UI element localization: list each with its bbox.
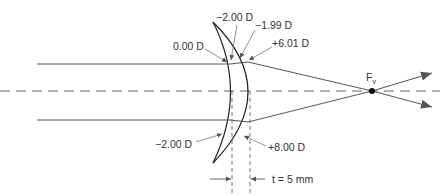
lens-front-surface — [213, 22, 231, 163]
label-front-surface-top: −2.00 D — [216, 11, 253, 23]
lens-diagram: −2.00 D −1.99 D 0.00 D +6.01 D −2.00 D +… — [0, 0, 440, 196]
label-back-ray-power: +6.01 D — [272, 37, 309, 49]
leader-back-bottom — [244, 136, 266, 146]
label-thickness: t = 5 mm — [272, 173, 313, 185]
upper-ray — [37, 62, 432, 91]
focal-point-dot — [369, 88, 375, 94]
label-front-ray-power: 0.00 D — [173, 40, 204, 52]
label-back-surface-top: −1.99 D — [255, 19, 292, 31]
leader-front-ray — [205, 49, 227, 62]
label-front-surface-bottom: −2.00 D — [155, 138, 192, 150]
leader-front-top — [231, 25, 237, 60]
leader-back-ray — [249, 47, 272, 60]
label-back-surface-bottom: +8.00 D — [268, 141, 305, 153]
label-focal-point: Fv — [366, 71, 376, 85]
leader-front-bottom — [196, 134, 222, 142]
leader-back-top — [240, 30, 255, 58]
lower-ray — [37, 91, 432, 122]
